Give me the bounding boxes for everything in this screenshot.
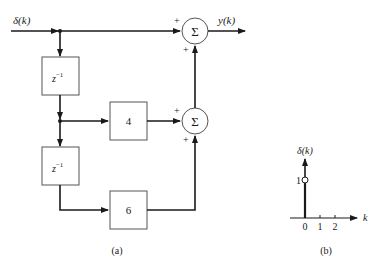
x-tick-1: 1 bbox=[318, 221, 323, 232]
caption-b: (b) bbox=[320, 245, 332, 257]
gain-4-label: 4 bbox=[126, 115, 132, 127]
figure-a: δ(k) z−1 4 z−1 6 Σ bbox=[11, 14, 245, 257]
input-label: δ(k) bbox=[13, 14, 31, 27]
gain6-out-arrow bbox=[147, 136, 195, 210]
summer-2-sign-left: + bbox=[174, 105, 180, 116]
figure-b: δ(k) k 1 0 1 2 (b) bbox=[290, 145, 368, 257]
gain-6-label: 6 bbox=[126, 204, 132, 216]
y-tick-1: 1 bbox=[296, 175, 301, 186]
x-axis-label: k bbox=[363, 212, 368, 223]
block-diagram-canvas: δ(k) z−1 4 z−1 6 Σ bbox=[0, 0, 382, 274]
y-axis-label: δ(k) bbox=[297, 145, 313, 157]
summer-1-sign-left: + bbox=[174, 15, 180, 26]
to-gain6-arrow bbox=[60, 185, 108, 210]
x-tick-2: 2 bbox=[333, 221, 338, 232]
caption-a: (a) bbox=[111, 245, 122, 257]
summer-1-symbol: Σ bbox=[191, 24, 199, 39]
output-label: y(k) bbox=[217, 14, 235, 27]
summer-1-sign-bottom: + bbox=[183, 44, 189, 55]
summer-2-sign-bottom: + bbox=[183, 134, 189, 145]
impulse-marker bbox=[302, 177, 308, 183]
summer-2-symbol: Σ bbox=[191, 114, 199, 129]
x-tick-0: 0 bbox=[303, 221, 308, 232]
